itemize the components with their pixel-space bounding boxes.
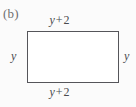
dimension-label-left: y bbox=[11, 50, 16, 63]
dimension-top-number: 2 bbox=[64, 13, 70, 27]
rectangle-shape bbox=[27, 31, 119, 83]
geometry-figure: (b) y+2 y+2 y y bbox=[0, 0, 136, 107]
dimension-bottom-operator: + bbox=[55, 85, 64, 99]
dimension-bottom-number: 2 bbox=[64, 85, 70, 99]
dimension-label-bottom: y+2 bbox=[0, 86, 119, 99]
dimension-top-operator: + bbox=[55, 13, 64, 27]
dimension-left-variable: y bbox=[11, 49, 16, 63]
dimension-bottom-variable: y bbox=[49, 85, 54, 99]
dimension-top-variable: y bbox=[49, 13, 54, 27]
dimension-label-right: y bbox=[124, 50, 129, 63]
dimension-right-variable: y bbox=[124, 49, 129, 63]
dimension-label-top: y+2 bbox=[0, 14, 119, 27]
